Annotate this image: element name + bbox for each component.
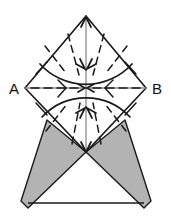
arrowhead-upper-arc-right — [87, 59, 96, 69]
edge-tick-upper-right — [125, 62, 136, 74]
upper-dashed-radial-2 — [68, 34, 79, 75]
lower-dashed-radial-3 — [93, 103, 101, 144]
label-b: B — [152, 80, 162, 97]
left-shaded-triangle — [21, 120, 86, 208]
geometry-diagram: A B — [0, 0, 171, 223]
edge-tick-upper-left — [36, 62, 47, 74]
left-crease-lower — [58, 88, 66, 97]
label-a: A — [9, 80, 19, 97]
figure-canvas: A B — [0, 0, 171, 223]
right-shaded-triangle — [86, 120, 151, 208]
right-crease-lower — [105, 88, 113, 97]
lower-dashed-radial-2 — [72, 103, 80, 144]
upper-dashed-radial-4 — [106, 46, 127, 73]
upper-dashed-radial-3 — [93, 34, 104, 75]
arrowhead-lower-arc-right — [87, 108, 96, 118]
arrowhead-upper-arc-left — [76, 59, 85, 69]
